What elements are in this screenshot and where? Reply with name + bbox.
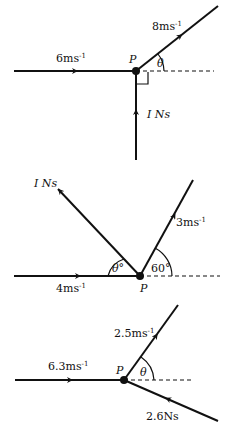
impulse-label: I Ns: [146, 108, 170, 121]
point-p-dot: [120, 376, 128, 384]
point-label: P: [128, 53, 137, 66]
impulse-line: [58, 189, 140, 276]
incoming-velocity-label: 6.3ms-1: [48, 360, 88, 373]
impulse-diagrams: P θ 6ms-1 8ms-1 I Ns P θ° 60° 4ms-1 3ms-…: [0, 0, 232, 443]
outgoing-velocity-label: 2.5ms-1: [114, 327, 154, 340]
point-p-dot: [132, 67, 140, 75]
theta-angle-label: θ°: [112, 262, 124, 275]
outgoing-velocity-label: 8ms-1: [152, 20, 182, 33]
point-label: P: [115, 364, 124, 377]
incoming-velocity-label: 4ms-1: [56, 282, 86, 295]
angle-label: θ: [140, 366, 147, 379]
outgoing-velocity-label: 3ms-1: [176, 216, 206, 229]
diagram-2: P θ° 60° 4ms-1 3ms-1 I Ns: [14, 177, 220, 295]
angle-label: θ: [157, 57, 164, 70]
diagram-3: P θ 6.3ms-1 2.5ms-1 2.6Ns: [15, 305, 218, 423]
point-label: P: [139, 282, 148, 295]
impulse-label: 2.6Ns: [146, 410, 179, 423]
point-p-dot: [136, 272, 144, 280]
incoming-velocity-label: 6ms-1: [56, 52, 86, 65]
impulse-label: I Ns: [33, 177, 57, 190]
sixty-angle-label: 60°: [151, 262, 171, 275]
outgoing-path-line: [136, 6, 218, 71]
diagram-1: P θ 6ms-1 8ms-1 I Ns: [14, 6, 218, 160]
